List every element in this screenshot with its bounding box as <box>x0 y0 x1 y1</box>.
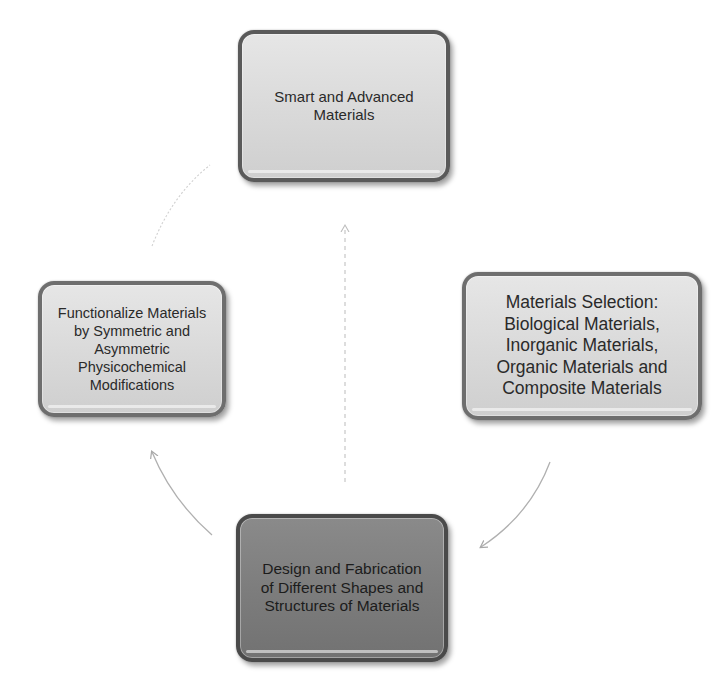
arrow-bottom-to-left <box>152 452 212 535</box>
box-highlight <box>246 650 438 653</box>
node-label-line: Functionalize Materials <box>58 305 206 321</box>
node-label: Smart and Advanced Materials <box>268 88 419 125</box>
node-label: Materials Selection: Biological Material… <box>490 292 673 400</box>
node-functionalize-materials: Functionalize Materials by Symmetric and… <box>38 281 226 417</box>
node-label-line: Structures of Materials <box>264 597 419 614</box>
node-smart-advanced-materials: Smart and Advanced Materials <box>238 30 450 182</box>
node-label-line: Physicochemical <box>78 359 186 375</box>
node-label-line: Modifications <box>90 377 175 393</box>
node-label-line: Design and Fabrication <box>262 560 421 577</box>
node-materials-selection: Materials Selection: Biological Material… <box>462 272 702 420</box>
node-label-line: Materials <box>314 106 375 123</box>
arrow-right-to-bottom <box>481 462 550 547</box>
box-highlight <box>48 405 216 408</box>
box-highlight <box>472 408 692 411</box>
node-label-line: of Different Shapes and <box>261 579 424 596</box>
node-label-line: Biological Materials, <box>504 314 660 334</box>
node-label: Design and Fabrication of Different Shap… <box>255 560 430 617</box>
box-highlight <box>248 170 440 173</box>
node-label-line: Materials Selection: <box>506 292 659 312</box>
node-label-line: Smart and Advanced <box>274 88 413 105</box>
node-label: Functionalize Materials by Symmetric and… <box>52 304 212 395</box>
node-label-line: Asymmetric <box>94 341 170 357</box>
arc-left-to-top <box>152 165 210 246</box>
node-label-line: Organic Materials and <box>496 357 667 377</box>
node-label-line: Composite Materials <box>502 378 662 398</box>
node-design-fabrication: Design and Fabrication of Different Shap… <box>236 514 448 662</box>
node-label-line: Inorganic Materials, <box>506 335 659 355</box>
node-label-line: by Symmetric and <box>74 323 190 339</box>
